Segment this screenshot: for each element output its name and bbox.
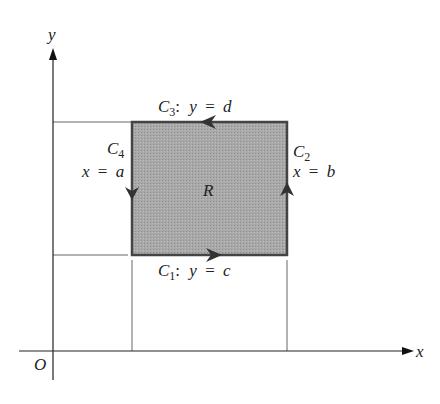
origin-label: O [34,355,46,374]
c1-name: C [158,261,170,280]
c4-subscript: 4 [118,147,124,161]
c4-equals: = [98,162,108,181]
c3-eq-rhs: d [223,97,232,116]
c1-colon: : [175,261,180,280]
y-axis-arrow-icon [49,48,57,60]
c1-eq-rhs: c [223,261,231,280]
c3-equals: = [205,97,215,116]
x-axis-label: x [415,342,424,361]
c1-equals: = [205,261,215,280]
c4-equation-label: x = a [81,162,124,181]
region-label: R [202,181,214,200]
c1-eq-lhs: y [187,261,197,280]
c2-equation-label: x = b [292,162,335,181]
c2-name: C [293,142,305,161]
c4-name-label: C4 [107,139,124,161]
c1-label: C1: y = c [158,261,231,283]
c2-equals: = [309,162,319,181]
c4-name: C [107,139,119,158]
c4-eq-lhs: x [81,162,90,181]
c2-name-label: C2 [293,142,310,164]
green-theorem-diagram: y x O R C3: y = d C1: y = c C4 x = a C2 … [0,0,440,404]
c3-label: C3: y = d [158,97,232,119]
c2-eq-rhs: b [327,162,336,181]
c2-eq-lhs: x [292,162,301,181]
x-axis-arrow-icon [402,347,414,355]
c3-colon: : [175,97,180,116]
c3-name: C [158,97,170,116]
c4-eq-rhs: a [116,162,125,181]
c3-eq-lhs: y [187,97,197,116]
y-axis-label: y [46,25,56,44]
